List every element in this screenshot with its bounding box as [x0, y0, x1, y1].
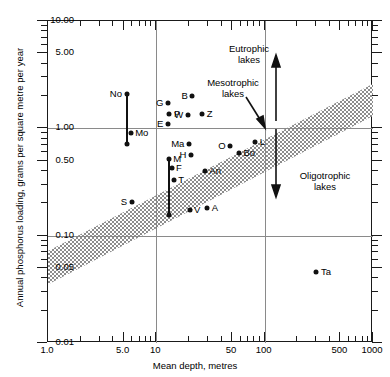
y-tick-1 [372, 127, 382, 128]
data-point-F[interactable] [169, 165, 174, 170]
x-tick-label-100: 100 [256, 345, 272, 355]
y-tick-0.03 [372, 291, 378, 292]
phosphorus-loading-chart: Annual phosphorus loading, grams per squ… [0, 0, 390, 377]
data-point-label-Mo: Mo [135, 128, 148, 138]
y-tick-10 [37, 20, 47, 21]
x-tick-800 [362, 20, 363, 26]
data-point-E[interactable] [165, 121, 170, 126]
y-tick-0.05 [37, 267, 47, 268]
x-tick-label-1000: 1000 [361, 345, 382, 355]
error-bar-cap-No-Mo [125, 141, 130, 146]
y-tick-1 [37, 127, 47, 128]
y-tick-5 [37, 52, 47, 53]
data-point-V[interactable] [187, 207, 192, 212]
data-point-Z[interactable] [200, 111, 205, 116]
plot-area: NoMoGBPWZEMaHOLBoMFTAnSVATa Eutrophic la… [47, 20, 372, 342]
data-point-O[interactable] [228, 144, 233, 149]
y-tick-0.06 [41, 259, 47, 260]
x-tick-3 [99, 20, 100, 26]
error-bar-No-Mo [126, 94, 128, 144]
x-tick-40 [221, 20, 222, 26]
data-point-No[interactable] [124, 91, 129, 96]
x-tick-5 [123, 20, 124, 30]
data-point-label-T: T [178, 175, 184, 185]
data-point-label-An: An [209, 166, 221, 176]
y-tick-0.03 [41, 291, 47, 292]
y-tick-0.6 [372, 151, 378, 152]
data-point-label-V: V [194, 205, 200, 215]
x-tick-30 [207, 20, 208, 26]
y-tick-label-0.1: 0.10 [56, 230, 75, 240]
data-point-Ta[interactable] [314, 269, 319, 274]
data-point-H[interactable] [188, 153, 193, 158]
x-tick-90 [259, 20, 260, 26]
x-tick-100 [264, 332, 265, 342]
data-point-W[interactable] [185, 113, 190, 118]
y-tick-label-0.05: 0.05 [56, 262, 75, 272]
y-tick-0.1 [37, 235, 47, 236]
data-point-label-L: L [260, 138, 265, 148]
x-tick-2 [80, 336, 81, 342]
x-tick-8 [145, 336, 146, 342]
x-tick-80 [253, 336, 254, 342]
x-tick-20 [188, 336, 189, 342]
x-tick-50 [231, 20, 232, 30]
y-tick-0.5 [37, 160, 47, 161]
y-tick-0.7 [41, 144, 47, 145]
data-point-B[interactable] [190, 94, 195, 99]
x-tick-200 [296, 20, 297, 26]
y-tick-4 [41, 63, 47, 64]
data-point-An[interactable] [202, 169, 207, 174]
y-tick-4 [372, 63, 378, 64]
y-tick-3 [41, 76, 47, 77]
error-bar-cap-M-T [166, 212, 171, 217]
x-tick-60 [240, 20, 241, 26]
data-point-L[interactable] [253, 140, 258, 145]
gridline-y-0.1 [48, 236, 373, 237]
y-tick-label-0.01: 0.01 [56, 337, 75, 347]
data-point-M[interactable] [166, 156, 171, 161]
data-point-label-G: G [156, 98, 163, 108]
data-point-G[interactable] [165, 100, 170, 105]
x-axis-title: Mean depth, metres [0, 360, 390, 371]
gridline-x-10 [156, 21, 157, 343]
y-tick-0.01 [37, 342, 47, 343]
data-point-S[interactable] [129, 200, 134, 205]
x-tick-90 [259, 336, 260, 342]
y-tick-0.04 [41, 277, 47, 278]
data-point-label-F: F [176, 163, 182, 173]
y-tick-0.05 [372, 267, 382, 268]
x-tick-600 [348, 20, 349, 26]
gridline-y-1 [48, 128, 373, 129]
x-tick-70 [247, 336, 248, 342]
y-tick-0.02 [41, 310, 47, 311]
data-point-label-Bo: Bo [244, 148, 256, 158]
data-point-label-Z: Z [207, 109, 213, 119]
y-tick-0.5 [372, 160, 382, 161]
eutrophic-arrow-head [272, 55, 280, 67]
annotation-mesotrophic: Mesotrophic lakes [207, 78, 259, 100]
y-tick-0.04 [372, 277, 378, 278]
data-point-Bo[interactable] [237, 150, 242, 155]
x-tick-label-5: 5.0 [116, 345, 129, 355]
x-tick-label-500: 500 [331, 345, 347, 355]
x-tick-300 [315, 20, 316, 26]
x-tick-500 [339, 20, 340, 30]
x-tick-1 [47, 332, 48, 342]
y-tick-label-0.5: 0.50 [56, 155, 75, 165]
x-tick-label-1: 1.0 [40, 345, 53, 355]
data-point-T[interactable] [171, 178, 176, 183]
x-tick-700 [355, 20, 356, 26]
data-point-P[interactable] [167, 111, 172, 116]
x-tick-70 [247, 20, 248, 26]
x-tick-6 [131, 336, 132, 342]
y-tick-8 [372, 30, 378, 31]
y-tick-0.2 [41, 202, 47, 203]
x-tick-300 [315, 336, 316, 342]
data-point-label-B: B [181, 91, 187, 101]
data-point-Ma[interactable] [186, 141, 191, 146]
data-point-A[interactable] [205, 206, 210, 211]
y-tick-0.8 [372, 138, 378, 139]
data-point-label-W: W [174, 110, 183, 120]
data-point-Mo[interactable] [128, 131, 133, 136]
